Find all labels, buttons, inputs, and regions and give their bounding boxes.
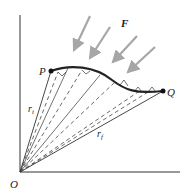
dashed-position-vectors (20, 70, 148, 172)
label-p: P (38, 65, 46, 77)
work-path-diagram: P Q O F ri rf (0, 0, 188, 194)
label-r-final: rf (97, 128, 104, 141)
point-p (49, 69, 54, 74)
path-curve (51, 67, 163, 92)
position-vector (20, 68, 68, 172)
displacement-ticks (58, 70, 156, 92)
label-o: O (10, 178, 18, 190)
force-arrow-icon (128, 47, 155, 72)
force-arrows (74, 16, 155, 72)
label-q: Q (167, 86, 175, 98)
label-force: F (120, 17, 129, 29)
force-arrow-icon (74, 16, 90, 50)
label-r-initial: ri (28, 103, 34, 116)
position-vector (20, 75, 100, 172)
point-q (161, 89, 166, 94)
force-arrow-icon (90, 27, 110, 58)
force-arrow-icon (113, 36, 137, 62)
